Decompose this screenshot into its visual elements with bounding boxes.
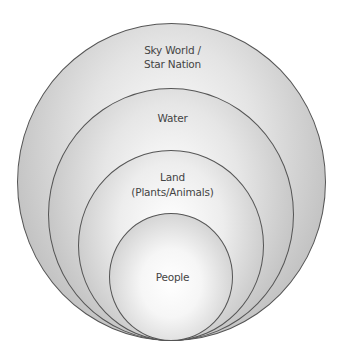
water-label: Water: [0, 111, 345, 125]
sky-world-label-line2: Star Nation: [0, 57, 345, 71]
land-label-line2: (Plants/Animals): [0, 185, 345, 199]
people-label: People: [0, 270, 345, 284]
sky-world-label-line1: Sky World /: [0, 43, 345, 57]
land-label-line1: Land: [0, 170, 345, 184]
